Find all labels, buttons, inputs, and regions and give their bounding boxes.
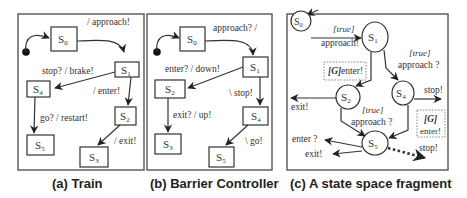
state-s1: S1 [243, 57, 268, 77]
label-stop: stop! [419, 143, 438, 153]
edge-s1-s2 [128, 77, 131, 105]
label-stop-brake: stop? / brake! [42, 66, 94, 76]
figure-canvas: S0 S1 S4 S2 S5 S3 / approach! stop? [0, 0, 467, 198]
state-s4: S4 [27, 81, 50, 97]
label-stop: \ stop! [229, 88, 253, 98]
state-s5: S5 [27, 135, 54, 155]
state-s3: S3 [80, 147, 108, 167]
label-approach: / approach! [87, 17, 130, 27]
label-approach: approach? / [213, 23, 257, 33]
state-s4: S4 [392, 81, 414, 105]
label-go: \ go! [245, 136, 263, 146]
edge-s5-exit [333, 151, 362, 154]
state-s0: S0 [51, 27, 77, 51]
caption-c: (c) A state space fragment [290, 176, 452, 191]
label-enter: enter! [341, 66, 363, 76]
label-exit-up: exit? / up! [173, 110, 212, 120]
label-approach: approach! [321, 38, 359, 48]
edge-s4-s5 [34, 97, 35, 133]
initial-arrow [157, 35, 179, 52]
state-s3: S3 [155, 134, 181, 154]
label-exit: exit! [305, 149, 322, 159]
panel-a-train: S0 S1 S4 S2 S5 S3 / approach! stop? [18, 14, 144, 191]
label-stop: stop! [424, 85, 443, 95]
label-guard-true: [true] [362, 105, 384, 115]
state-s2: S2 [155, 80, 185, 98]
label-enter-q: enter ? [292, 134, 318, 144]
edge-s5-enter [325, 140, 362, 147]
label-go-restart: go? / restart! [40, 113, 88, 123]
state-s2: S2 [336, 85, 360, 109]
label-enter-down: enter? / down! [165, 64, 220, 74]
label-guard-g: [G] [328, 66, 341, 76]
state-s2: S2 [115, 107, 136, 125]
caption-a: (a) Train [52, 176, 103, 191]
label-approach-q: approach ? [351, 117, 392, 127]
panel-c-state-space-fragment: S0 S1 S2 S4 S5 [true] [287, 10, 452, 191]
state-s5: S5 [362, 131, 388, 155]
edge-s0-s1 [77, 40, 124, 52]
label-enter: / enter! [93, 86, 120, 96]
label-exit: / exit! [114, 136, 136, 146]
label-exit: exit! [291, 102, 308, 112]
state-s0: S0 [291, 11, 311, 31]
label-guard-true: [true] [333, 24, 355, 34]
panel-b-barrier-controller: S0 S1 S2 S4 S3 S5 approach? / enter? / d… [147, 14, 279, 191]
label-approach-q: approach ? [398, 60, 439, 70]
initial-arrow [26, 35, 49, 52]
edge-s1-s4 [384, 50, 398, 80]
label-guard-g: [G] [424, 114, 437, 124]
state-s0: S0 [180, 27, 205, 51]
state-s1: S1 [115, 62, 139, 78]
state-s5: S5 [209, 147, 234, 167]
edge-s0-s1 [205, 40, 253, 55]
caption-b: (b) Barrier Controller [150, 176, 279, 191]
state-s1: S1 [362, 22, 388, 52]
label-enter: enter! [420, 126, 441, 136]
label-guard-true: [true] [409, 48, 431, 58]
state-s4: S4 [243, 107, 268, 125]
